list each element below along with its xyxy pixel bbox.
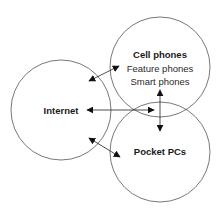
venn-diagram: Internet Cell phones Feature phones Smar… <box>0 0 221 215</box>
cell-phones-label: Cell phones <box>133 49 187 60</box>
arrow-internet-cell-phones <box>89 66 119 81</box>
internet-label: Internet <box>44 105 80 116</box>
smart-phones-label: Smart phones <box>130 76 189 87</box>
pocket-pcs-label: Pocket PCs <box>134 146 186 157</box>
feature-phones-label: Feature phones <box>127 63 194 74</box>
